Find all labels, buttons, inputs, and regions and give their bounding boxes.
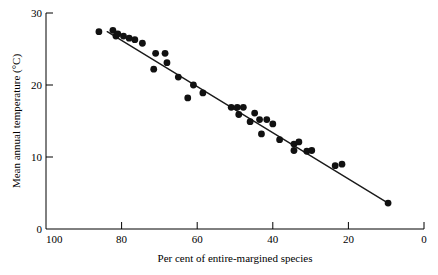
data-point [184,95,191,102]
data-point [139,40,146,47]
y-tick-label-10: 10 [31,151,43,163]
data-point [240,104,247,111]
data-point [269,120,276,127]
x-tick-label-20: 20 [343,233,355,245]
x-tick-label-80: 80 [116,233,128,245]
scatter-plot-figure: 30 20 10 0 Mean annual temperature (°C) … [0,0,438,275]
plot-canvas: 30 20 10 0 Mean annual temperature (°C) … [0,0,438,275]
data-point [332,162,339,169]
data-point [276,136,283,143]
data-point [291,147,298,154]
data-point [247,118,254,125]
data-point [234,104,241,111]
data-point [385,200,392,207]
data-point [256,116,263,123]
x-tick-label-40: 40 [267,233,279,245]
data-points-layer [96,27,392,207]
data-point [152,50,159,57]
y-tick-label-30: 30 [31,7,43,19]
data-point [339,161,346,168]
x-axis-group: 100 80 60 40 20 0 Per cent of entire-mar… [46,222,427,264]
regression-line [107,32,388,203]
data-point [308,147,315,154]
data-point [251,110,258,117]
trend-line-layer [107,32,388,203]
data-point [263,116,270,123]
y-axis-group: 30 20 10 0 Mean annual temperature (°C) [10,7,53,235]
x-axis-title: Per cent of entire-margined species [158,252,313,264]
data-point [150,66,157,73]
x-tick-label-0: 0 [421,233,427,245]
data-point [235,111,242,118]
y-tick-label-20: 20 [31,79,43,91]
y-tick-label-0: 0 [37,223,43,235]
data-point [258,131,265,138]
data-point [162,50,169,57]
data-point [199,90,206,97]
data-point [126,35,133,42]
data-point [175,74,182,81]
data-point [190,82,197,89]
data-point [131,36,138,43]
x-tick-label-60: 60 [192,233,204,245]
data-point [96,28,103,35]
data-point [228,104,235,111]
y-axis-title: Mean annual temperature (°C) [10,54,23,189]
data-point [295,138,302,145]
data-point [164,59,171,66]
x-tick-label-100: 100 [46,233,63,245]
